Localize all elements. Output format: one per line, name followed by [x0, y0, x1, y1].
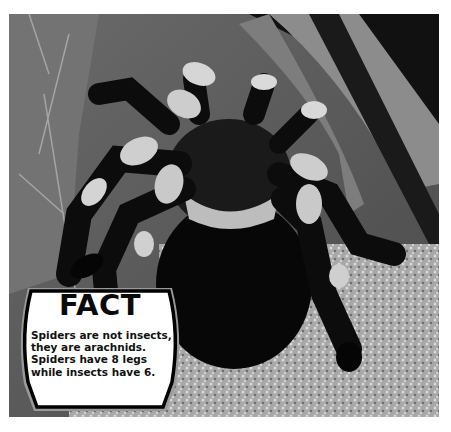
fact-line: Spiders are not insects, — [31, 329, 181, 341]
fact-line: while insects have 6. — [31, 366, 181, 378]
fact-callout: FACT Spiders are not insects, they are a… — [14, 284, 186, 415]
fact-body: Spiders are not insects, they are arachn… — [31, 329, 181, 378]
fact-line: they are arachnids. — [31, 341, 181, 353]
fact-line: Spiders have 8 legs — [31, 353, 181, 365]
fact-title: FACT — [14, 288, 186, 322]
